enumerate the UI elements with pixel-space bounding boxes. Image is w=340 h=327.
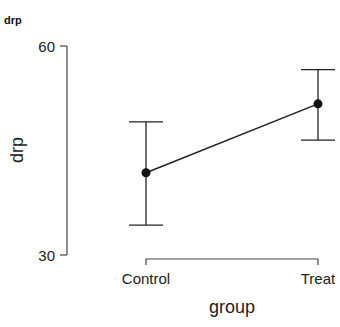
data-point xyxy=(142,168,151,177)
y-tick-label: 60 xyxy=(38,38,55,55)
chart: 3060 ControlTreat drp group xyxy=(0,0,340,327)
data-point xyxy=(314,99,323,108)
series-line xyxy=(146,104,318,173)
x-axis: ControlTreat xyxy=(122,259,336,287)
x-tick-label: Control xyxy=(122,270,170,287)
y-axis-title: drp xyxy=(7,137,27,163)
plot-area xyxy=(129,70,335,225)
y-tick-label: 30 xyxy=(38,247,55,264)
x-axis-title: group xyxy=(209,297,255,317)
x-tick-label: Treat xyxy=(301,270,336,287)
y-axis: 3060 xyxy=(38,38,67,264)
